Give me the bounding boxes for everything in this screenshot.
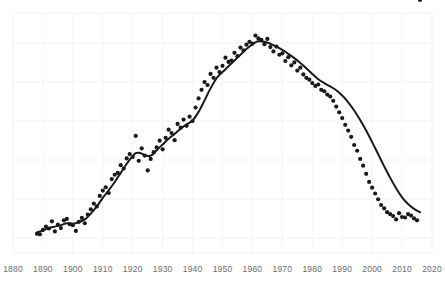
data-point	[101, 189, 105, 193]
data-point	[158, 139, 162, 143]
data-point	[208, 72, 212, 76]
data-point	[116, 171, 120, 175]
chart-container: 1880189019001910192019301940195019601970…	[0, 0, 445, 288]
data-point	[59, 226, 63, 230]
data-point	[301, 72, 305, 76]
data-point	[418, 0, 422, 2]
data-point	[331, 99, 335, 103]
data-point	[173, 138, 177, 142]
data-point	[322, 89, 326, 93]
data-point	[337, 110, 341, 114]
data-point	[259, 38, 263, 42]
data-point	[376, 197, 380, 201]
data-point	[187, 115, 191, 119]
data-point	[355, 149, 359, 153]
data-point	[283, 59, 287, 63]
data-point	[80, 216, 84, 220]
scatter-plot-canvas	[0, 0, 445, 288]
data-point	[265, 37, 269, 41]
data-point	[286, 55, 290, 59]
data-point	[193, 105, 197, 109]
data-point	[53, 229, 57, 233]
data-point	[223, 56, 227, 60]
data-point	[56, 223, 60, 227]
x-tick-label: 1980	[302, 264, 322, 274]
data-point	[131, 155, 135, 159]
data-point	[95, 204, 99, 208]
data-point	[379, 203, 383, 207]
data-point	[352, 143, 356, 147]
data-point	[271, 49, 275, 53]
x-tick-label: 1950	[213, 264, 233, 274]
data-point	[71, 223, 75, 227]
data-point	[349, 135, 353, 139]
x-tick-label: 1960	[243, 264, 263, 274]
data-point	[214, 66, 218, 70]
data-point	[328, 94, 332, 98]
data-point	[179, 126, 183, 130]
data-point	[152, 150, 156, 154]
data-point	[316, 82, 320, 86]
data-point	[184, 124, 188, 128]
data-point	[268, 45, 272, 49]
data-point	[334, 105, 338, 109]
vertical-gridlines	[13, 13, 432, 253]
data-point	[235, 54, 239, 58]
x-tick-label: 1900	[63, 264, 83, 274]
x-tick-label: 1930	[153, 264, 173, 274]
data-point	[346, 129, 350, 133]
data-point	[190, 119, 194, 123]
data-point	[232, 51, 236, 55]
x-tick-label: 1990	[332, 264, 352, 274]
data-point	[161, 147, 165, 151]
data-point	[140, 146, 144, 150]
data-point	[274, 45, 278, 49]
data-point	[292, 60, 296, 64]
data-point	[403, 215, 407, 219]
data-point	[370, 186, 374, 190]
data-point	[170, 131, 174, 135]
data-point	[110, 177, 114, 181]
data-point	[181, 117, 185, 121]
data-point	[176, 122, 180, 126]
data-point	[340, 116, 344, 120]
data-point	[167, 128, 171, 132]
data-point	[382, 206, 386, 210]
data-point	[343, 123, 347, 127]
data-point	[298, 66, 302, 70]
data-point	[307, 78, 311, 82]
data-point	[134, 134, 138, 138]
data-point	[164, 136, 168, 140]
data-point	[89, 207, 93, 211]
x-tick-label: 1890	[33, 264, 53, 274]
data-point	[394, 217, 398, 221]
x-tick-label: 2000	[362, 264, 382, 274]
data-point	[137, 159, 141, 163]
data-point	[38, 232, 42, 236]
x-tick-label: 2020	[422, 264, 442, 274]
data-point	[241, 48, 245, 52]
data-point	[220, 64, 224, 68]
data-point	[83, 221, 87, 225]
data-point	[119, 163, 123, 167]
data-point	[86, 213, 90, 217]
data-point	[47, 226, 51, 230]
x-tick-label: 1940	[183, 264, 203, 274]
data-point	[358, 157, 362, 161]
data-point	[149, 157, 153, 161]
data-point	[125, 156, 129, 160]
data-point	[364, 172, 368, 176]
data-point	[65, 217, 69, 221]
data-point	[104, 185, 108, 189]
data-point	[415, 218, 419, 222]
data-points	[35, 0, 422, 236]
data-point	[41, 228, 45, 232]
data-point	[107, 191, 111, 195]
data-point	[196, 96, 200, 100]
data-point	[205, 83, 209, 87]
data-point	[217, 70, 221, 74]
data-point	[122, 166, 126, 170]
data-point	[211, 76, 215, 80]
data-point	[250, 42, 254, 46]
data-point	[229, 58, 233, 62]
